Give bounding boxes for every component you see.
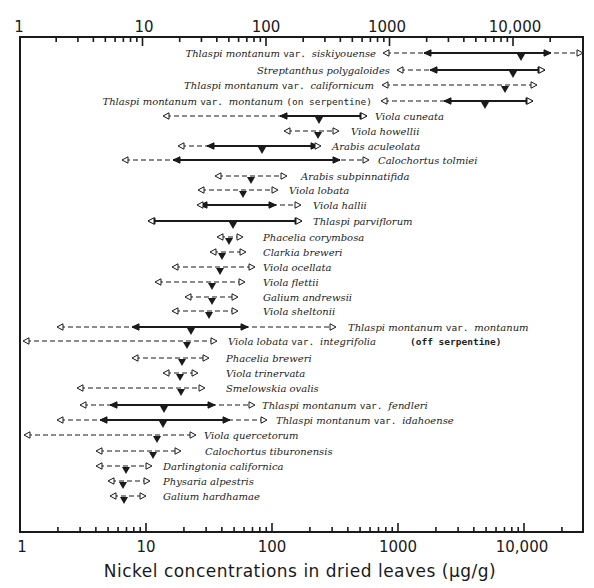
open-arrowhead-icon <box>203 355 209 361</box>
bottom-tick-label-1000: 1000 <box>379 538 417 556</box>
open-arrowhead-icon <box>80 402 86 408</box>
open-arrowhead-icon <box>122 157 128 163</box>
species-row: Thlaspi montanum var. montanum (on serpe… <box>102 96 533 110</box>
mean-triangle-icon <box>120 497 128 504</box>
species-label: Viola quercetorum <box>204 430 298 441</box>
open-arrowhead-icon <box>192 370 198 376</box>
open-arrowhead-icon <box>249 402 255 408</box>
species-row: Galium hardhamae <box>110 491 260 505</box>
filled-arrowhead-icon <box>241 324 248 330</box>
open-arrowhead-icon <box>333 128 339 134</box>
nickel-range-chart: 1 10 100 1000 10,000 Thlaspi montanum va… <box>0 0 594 588</box>
open-arrowhead-icon <box>172 264 178 270</box>
species-row: Viola howellii <box>284 126 419 140</box>
mean-triangle-icon <box>239 191 247 198</box>
open-arrowhead-icon <box>163 113 169 119</box>
mean-triangle-icon <box>258 147 266 154</box>
species-row: Viola flettii <box>155 277 319 291</box>
open-arrowhead-icon <box>146 463 152 469</box>
open-arrowhead-icon <box>217 234 223 240</box>
filled-arrowhead-icon <box>269 202 276 208</box>
species-label: Clarkia breweri <box>263 247 343 258</box>
bottom-tick-label-10000: 10,000 <box>496 538 549 556</box>
mean-triangle-icon <box>315 117 323 124</box>
open-arrowhead-icon <box>96 463 102 469</box>
open-arrowhead-icon <box>23 338 29 344</box>
species-row: Viola lobata var. integrifolia <box>23 336 376 350</box>
open-arrowhead-icon <box>284 128 290 134</box>
species-label: Arabis aculeolata <box>331 141 420 152</box>
open-arrowhead-icon <box>295 202 301 208</box>
species-label: Darlingtonia californica <box>162 461 284 472</box>
species-label: Calochortus tolmiei <box>378 155 477 166</box>
top-axis: 1 10 100 1000 10,000 <box>14 18 550 46</box>
species-label: Viola trinervata <box>226 368 305 379</box>
top-tick-label-1000: 1000 <box>368 18 406 36</box>
open-arrowhead-icon <box>330 324 336 330</box>
top-axis-ticks <box>56 37 550 46</box>
open-arrowhead-icon <box>296 218 302 224</box>
species-label: Viola cuneata <box>375 111 444 122</box>
open-arrowhead-icon <box>210 249 216 255</box>
open-arrowhead-icon <box>383 50 389 56</box>
mean-triangle-icon <box>247 177 255 184</box>
filled-arrowhead-icon <box>333 157 340 163</box>
species-row: Arabis subpinnatifida <box>215 171 410 185</box>
open-arrowhead-icon <box>531 82 537 88</box>
species-row: Thlaspi montanum var. montanum <box>57 322 529 336</box>
mean-triangle-icon <box>183 342 191 349</box>
open-arrowhead-icon <box>96 448 102 454</box>
species-label: Thlaspi montanum var. montanum <box>348 322 529 333</box>
species-label: Viola lobata var. integrifolia <box>228 336 376 347</box>
mean-triangle-icon <box>160 406 168 413</box>
filled-arrowhead-icon <box>223 417 230 423</box>
species-row: Phacelia corymbosa <box>217 232 364 246</box>
species-label: Thlaspi montanum var. idahoense <box>276 415 454 426</box>
mean-triangle-icon <box>176 374 184 381</box>
species-row: Arabis aculeolata <box>178 141 420 155</box>
species-label: Phacelia breweri <box>225 353 312 364</box>
open-arrowhead-icon <box>215 173 221 179</box>
species-row: Viola trinervata <box>163 368 305 382</box>
bottom-axis-ticks <box>20 523 562 532</box>
species-label: Phacelia corymbosa <box>262 232 364 243</box>
open-arrowhead-icon <box>315 143 321 149</box>
species-row: Thlaspi parviflorum <box>148 216 413 230</box>
mean-triangle-icon <box>481 102 489 109</box>
species-row: Thlaspi montanum var. siskiyouense <box>185 48 583 62</box>
species-label: Physaria alpestris <box>162 476 254 487</box>
open-arrowhead-icon <box>172 308 178 314</box>
species-row: Thlaspi montanum var. fendleri <box>80 400 428 414</box>
mean-triangle-icon <box>205 312 213 319</box>
species-label: Viola flettii <box>263 277 319 288</box>
mean-triangle-icon <box>187 328 195 335</box>
open-arrowhead-icon <box>363 157 369 163</box>
mean-triangle-icon <box>208 283 216 290</box>
species-row: Thlaspi montanum var. californicum <box>184 80 537 94</box>
mean-triangle-icon <box>208 298 216 305</box>
species-label: Viola sheltonii <box>263 306 335 317</box>
bottom-tick-label-1: 1 <box>17 538 27 556</box>
species-label: Viola howellii <box>351 126 419 137</box>
species-label: Streptanthus polygaloides <box>257 65 390 76</box>
filled-arrowhead-icon <box>132 324 139 330</box>
species-label: Viola lobata <box>289 185 349 196</box>
open-arrowhead-icon <box>232 308 238 314</box>
filled-arrowhead-icon <box>207 143 214 149</box>
mean-triangle-icon <box>509 71 517 78</box>
open-arrowhead-icon <box>144 478 150 484</box>
species-label: Thlaspi parviflorum <box>313 216 413 227</box>
species-label: Thlaspi montanum var. siskiyouense <box>185 48 376 59</box>
species-row: Thlaspi montanum var. idahoense <box>57 415 454 429</box>
open-arrowhead-icon <box>108 478 114 484</box>
mean-triangle-icon <box>159 421 167 428</box>
open-arrowhead-icon <box>232 294 238 300</box>
open-arrowhead-icon <box>249 264 255 270</box>
open-arrowhead-icon <box>178 143 184 149</box>
open-arrowhead-icon <box>198 187 204 193</box>
mean-triangle-icon <box>229 222 237 229</box>
species-row: Galium andrewsii <box>185 292 352 306</box>
open-arrowhead-icon <box>148 218 154 224</box>
species-label: Thlaspi montanum var. californicum <box>184 80 374 91</box>
top-tick-label-1: 1 <box>14 18 24 36</box>
